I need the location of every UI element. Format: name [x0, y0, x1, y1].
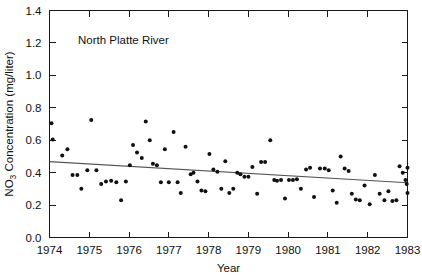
scatter-plot: 0.00.20.40.60.81.01.21.41974197519761977…: [0, 0, 422, 278]
data-point: [140, 156, 144, 160]
data-point: [382, 198, 386, 202]
trend-line: [50, 162, 408, 183]
data-point: [65, 147, 69, 151]
data-point: [131, 143, 135, 147]
data-point: [390, 199, 394, 203]
data-point: [255, 192, 259, 196]
data-point: [331, 188, 335, 192]
data-point: [49, 121, 53, 125]
data-point: [128, 163, 132, 167]
data-point: [312, 195, 316, 199]
data-point: [386, 189, 390, 193]
x-tick-label: 1974: [37, 244, 63, 256]
x-tick-label: 1975: [76, 244, 102, 256]
data-point: [246, 175, 250, 179]
x-tick-label: 1976: [116, 244, 142, 256]
data-point: [291, 178, 295, 182]
data-point: [405, 182, 409, 186]
data-point: [124, 180, 128, 184]
x-tick-label: 1983: [395, 244, 421, 256]
data-point: [279, 178, 283, 182]
data-point: [172, 130, 176, 134]
data-point: [350, 192, 354, 196]
x-tick-label: 1979: [236, 244, 262, 256]
data-point: [368, 202, 372, 206]
data-point: [99, 182, 103, 186]
data-point: [163, 147, 167, 151]
data-point: [51, 137, 55, 141]
x-tick-label: 1982: [355, 244, 381, 256]
data-point: [401, 171, 405, 175]
data-point: [335, 201, 339, 205]
x-tick-label: 1977: [156, 244, 182, 256]
data-point: [104, 180, 108, 184]
data-point: [155, 163, 159, 167]
data-point: [227, 191, 231, 195]
data-point: [119, 198, 123, 202]
data-point: [167, 180, 171, 184]
data-point: [195, 180, 199, 184]
data-point: [109, 179, 113, 183]
plot-annotation: North Platte River: [78, 34, 169, 46]
data-point: [71, 173, 75, 177]
data-point: [184, 145, 188, 149]
y-tick-label: 1.4: [26, 5, 43, 17]
data-point: [219, 187, 223, 191]
data-point: [304, 167, 308, 171]
data-point: [378, 192, 382, 196]
y-tick-label: 0.2: [26, 199, 42, 211]
data-point: [85, 168, 89, 172]
data-point: [347, 169, 351, 173]
data-point: [144, 120, 148, 124]
y-tick-label: 0.6: [26, 134, 42, 146]
data-point: [295, 177, 299, 181]
data-point: [354, 197, 358, 201]
x-tick-label: 1980: [275, 244, 301, 256]
data-point: [151, 162, 155, 166]
data-point: [358, 198, 362, 202]
data-point: [327, 168, 331, 172]
data-point: [404, 178, 408, 182]
data-point: [60, 154, 64, 158]
data-point: [263, 160, 267, 164]
data-point: [238, 172, 242, 176]
data-point: [199, 188, 203, 192]
data-point: [179, 191, 183, 195]
data-point: [79, 187, 83, 191]
data-point: [339, 154, 343, 158]
x-tick-label: 1978: [196, 244, 222, 256]
data-point: [159, 180, 163, 184]
data-point: [75, 173, 79, 177]
data-point: [250, 165, 254, 169]
data-point: [398, 164, 402, 168]
x-axis-title: Year: [217, 262, 240, 274]
data-point: [203, 189, 207, 193]
data-point: [283, 197, 287, 201]
data-point: [363, 184, 367, 188]
data-point: [242, 175, 246, 179]
data-point: [215, 170, 219, 174]
data-point: [207, 152, 211, 156]
data-point: [318, 167, 322, 171]
data-point: [114, 180, 118, 184]
chart-figure: 0.00.20.40.60.81.01.21.41974197519761977…: [0, 0, 422, 278]
data-point: [406, 191, 410, 195]
y-tick-label: 0.0: [26, 232, 42, 244]
y-tick-label: 1.0: [26, 69, 42, 81]
data-point: [89, 118, 93, 122]
data-point: [231, 187, 235, 191]
x-tick-label: 1981: [315, 244, 341, 256]
trend-line-segment: [50, 162, 408, 183]
data-point: [211, 167, 215, 171]
data-point: [275, 179, 279, 183]
y-tick-label: 1.2: [26, 37, 42, 49]
data-point: [373, 173, 377, 177]
data-point: [259, 160, 263, 164]
data-point: [323, 167, 327, 171]
data-point: [394, 198, 398, 202]
data-points: [49, 118, 409, 206]
data-point: [299, 187, 303, 191]
data-point: [406, 166, 410, 170]
data-point: [308, 166, 312, 170]
data-point: [343, 167, 347, 171]
